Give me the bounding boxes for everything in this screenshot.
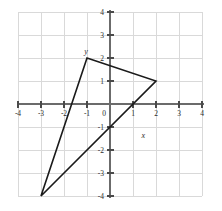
x-tick-label: -2	[61, 109, 67, 118]
y-tick-label: 1	[100, 77, 104, 86]
x-tick-label: -4	[15, 109, 21, 118]
x-tick-label: 2	[154, 109, 158, 118]
plot-background	[0, 0, 222, 211]
x-tick-label: 1	[131, 109, 135, 118]
x-tick-label: 4	[200, 109, 204, 118]
y-tick-label: 3	[100, 31, 104, 40]
x-tick-label: -3	[38, 109, 44, 118]
x-tick-label: -1	[84, 109, 90, 118]
y-tick-label: -4	[98, 192, 104, 201]
y-tick-label: -1	[98, 123, 104, 132]
axis-label-x: x	[141, 131, 146, 140]
y-tick-label: 4	[100, 8, 104, 17]
plot-canvas: -4-3-2-101234 4321-1-2-3-4 yx	[0, 0, 222, 211]
x-tick-label: 0	[102, 109, 106, 118]
coordinate-plane-figure: -4-3-2-101234 4321-1-2-3-4 yx	[0, 0, 222, 211]
y-tick-label: -3	[98, 169, 104, 178]
x-tick-label: 3	[177, 109, 181, 118]
y-tick-label: -2	[98, 146, 104, 155]
vertex-label-y: y	[83, 47, 88, 56]
y-tick-label: 2	[100, 54, 104, 63]
